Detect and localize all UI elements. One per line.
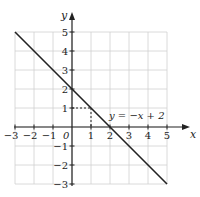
x-tick-label: 2	[107, 130, 113, 141]
x-tick-label: 5	[164, 130, 170, 141]
y-tick-label: 4	[62, 46, 68, 57]
y-tick-label: −1	[53, 141, 68, 152]
x-axis-label: x	[190, 128, 197, 141]
y-tick-label: 1	[62, 103, 68, 114]
y-tick-label: 3	[62, 65, 68, 76]
coordinate-plane: −3−2−11234554321−1−2−3 x y 0 y = −x + 2	[0, 0, 200, 197]
y-axis	[69, 12, 75, 186]
x-axis-arrow-icon	[182, 124, 190, 130]
x-tick-label: 4	[145, 130, 151, 141]
y-tick-label: 5	[62, 27, 68, 38]
x-tick-label: −2	[23, 130, 38, 141]
x-tick-label: −1	[42, 130, 57, 141]
origin-label: 0	[63, 130, 70, 141]
x-tick-label: 1	[88, 130, 94, 141]
x-tick-label: −3	[4, 130, 19, 141]
y-axis-label: y	[60, 9, 68, 22]
equation-label: y = −x + 2	[108, 110, 165, 121]
y-tick-label: −3	[53, 179, 68, 190]
x-tick-label: 3	[126, 130, 132, 141]
y-axis-arrow-icon	[69, 12, 75, 20]
dashed-guide	[72, 108, 91, 127]
y-tick-label: −2	[53, 160, 68, 171]
